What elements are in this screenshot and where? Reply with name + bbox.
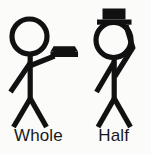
whole-figure-hat-icon [51,47,79,58]
whole-figure-right-leg [30,98,47,127]
whole-figure-head [12,19,47,54]
whole-figure-left-arm [11,63,31,92]
half-figure-right-leg [114,98,131,127]
figure-labels-row: Whole Half [0,126,151,155]
label-whole: Whole [14,126,63,146]
label-half: Half [98,126,129,146]
half-figure-hat-icon [97,9,132,25]
half-figure-left-arm [97,62,115,92]
stick-figure-illustration: Whole Half [0,0,151,155]
half-figure-left-leg [98,98,115,127]
half-figure-right-arm-forearm [126,25,133,49]
whole-figure-right-arm [30,56,55,66]
whole-figure [11,19,79,127]
figures-drawing [0,0,151,131]
half-figure [96,9,134,128]
whole-figure-left-leg [14,98,31,127]
